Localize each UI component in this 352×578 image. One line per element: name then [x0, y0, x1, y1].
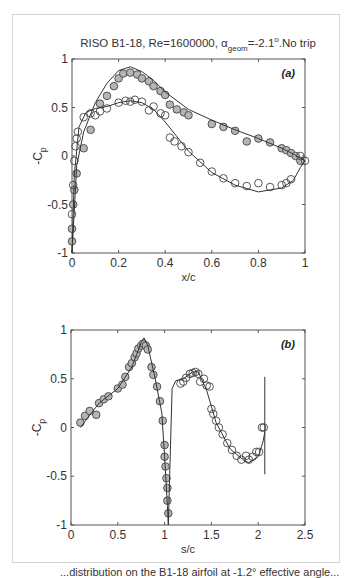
x-tick-label: 0.8 — [250, 256, 267, 270]
x-tick-label: 0.6 — [203, 256, 220, 270]
data-point-open — [185, 148, 193, 156]
panel-label: (a) — [282, 67, 296, 79]
data-point-filled — [126, 69, 134, 77]
y-axis-label: -Cp — [31, 147, 48, 165]
data-point-filled — [96, 100, 104, 108]
data-point-open — [161, 111, 169, 119]
x-tick-label: 0.2 — [110, 256, 127, 270]
data-point-filled — [161, 441, 169, 449]
x-tick-label: 2 — [255, 528, 262, 542]
data-point-filled — [68, 225, 76, 233]
data-point-filled — [166, 101, 174, 109]
panel-b: 00.511.522.510.50-0.5-1s/c-Cp(b) — [30, 323, 314, 555]
x-axis-label: x/c — [181, 271, 196, 283]
y-tick-label: -0.5 — [46, 469, 67, 483]
x-tick-label: 0.5 — [109, 528, 126, 542]
y-tick-label: 0 — [61, 149, 68, 163]
figure-caption: ...distribution on the B1-18 airfoil at … — [60, 566, 339, 578]
y-axis-label: -Cp — [30, 419, 47, 437]
x-axis-label: s/c — [181, 543, 196, 555]
data-point-open — [196, 159, 204, 167]
data-point-open — [73, 135, 81, 143]
y-tick-label: 0.5 — [51, 101, 68, 115]
plot-area — [71, 330, 305, 525]
data-point-filled — [87, 126, 95, 134]
data-point-open — [233, 452, 241, 460]
data-point-filled — [103, 92, 111, 100]
chart-title: RISO B1-18, Re=1600000, αgeom=-2.1o.No t… — [80, 35, 316, 53]
x-tick-label: 1.5 — [203, 528, 220, 542]
y-tick-label: -0.5 — [47, 198, 68, 212]
data-point-open — [171, 138, 179, 146]
data-point-open — [166, 134, 174, 142]
panel-a: 00.20.40.60.8110.50-0.5-1x/c-Cp(a) — [31, 52, 309, 283]
data-point-filled — [92, 411, 100, 419]
data-point-filled — [110, 82, 118, 90]
y-tick-label: 0 — [60, 421, 67, 435]
data-point-open — [96, 108, 104, 116]
data-point-filled — [119, 70, 127, 78]
y-tick-label: -1 — [57, 246, 68, 260]
y-tick-label: -1 — [56, 518, 67, 532]
y-tick-label: 0.5 — [50, 372, 67, 386]
data-point-open — [92, 111, 100, 119]
data-point-open — [260, 424, 268, 432]
data-point-open — [255, 179, 263, 187]
x-tick-label: 0 — [69, 256, 76, 270]
x-tick-label: 1 — [161, 528, 168, 542]
computed-line — [80, 338, 264, 525]
x-tick-label: 0.4 — [157, 256, 174, 270]
y-tick-label: 1 — [61, 52, 68, 66]
data-point-filled — [243, 138, 251, 146]
data-point-open — [126, 98, 134, 106]
data-point-open — [238, 456, 246, 464]
data-point-filled — [138, 75, 146, 83]
data-point-open — [72, 143, 80, 151]
y-tick-label: 1 — [60, 323, 67, 337]
computed-line — [72, 101, 305, 253]
data-point-filled — [185, 111, 193, 119]
data-point-open — [206, 383, 214, 391]
data-point-filled — [77, 419, 85, 427]
panel-label: (b) — [281, 338, 295, 350]
data-point-filled — [173, 106, 181, 114]
x-tick-label: 1 — [302, 256, 309, 270]
data-point-filled — [164, 484, 172, 492]
x-tick-label: 0 — [68, 528, 75, 542]
x-tick-label: 2.5 — [297, 528, 314, 542]
